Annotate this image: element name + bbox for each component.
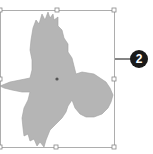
diagram-canvas: 2 xyxy=(0,0,153,154)
center-marker xyxy=(55,77,58,80)
callout-number: 2 xyxy=(130,50,148,68)
handle-bottom-left[interactable] xyxy=(0,145,2,149)
handle-top-right[interactable] xyxy=(112,8,116,12)
handle-top-left[interactable] xyxy=(0,8,2,12)
handle-bottom-right[interactable] xyxy=(112,145,116,149)
handle-top-center[interactable] xyxy=(55,8,59,12)
handle-bottom-center[interactable] xyxy=(54,145,58,149)
handle-middle-left[interactable] xyxy=(0,77,2,81)
handle-middle-right[interactable] xyxy=(112,77,116,81)
